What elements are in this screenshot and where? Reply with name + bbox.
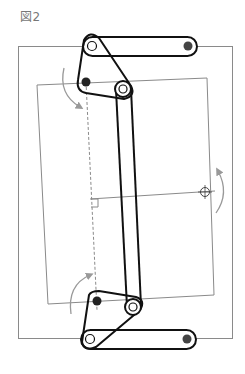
pivot-crosshair bbox=[198, 185, 212, 199]
axis-line-horizontal bbox=[90, 191, 215, 199]
bottom-link-fixed-pin bbox=[183, 335, 192, 344]
bottom-link-open-pin bbox=[86, 335, 95, 344]
coupler-bottom-pin bbox=[129, 303, 137, 311]
linkage-diagram bbox=[0, 0, 245, 374]
upper-frame-pivot bbox=[82, 78, 91, 87]
coupler-top-pin bbox=[119, 85, 127, 93]
rotation-arrow-right bbox=[216, 171, 224, 213]
top-link-fixed-pin bbox=[184, 42, 193, 51]
coupler-bar bbox=[116, 89, 141, 307]
top-link-open-pin bbox=[88, 42, 97, 51]
lower-frame-pivot bbox=[93, 297, 102, 306]
